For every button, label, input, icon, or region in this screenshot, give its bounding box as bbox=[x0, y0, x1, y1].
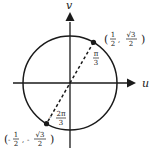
svg-text:2: 2 bbox=[38, 140, 42, 148]
unit-circle-diagram: u v ( 1 2 , √3 2 ) π 3 - 2π 3 ( - 1 2 bbox=[0, 0, 153, 161]
v-axis-arrowhead bbox=[66, 12, 75, 21]
u-axis-label: u bbox=[142, 77, 149, 90]
svg-text:,: , bbox=[22, 136, 24, 144]
svg-text:√3: √3 bbox=[36, 131, 45, 139]
v-axis-label: v bbox=[66, 0, 73, 12]
svg-text:3: 3 bbox=[94, 59, 98, 67]
svg-text:1: 1 bbox=[111, 31, 115, 39]
coord-label-pi-over-3: ( 1 2 , √3 2 ) bbox=[104, 31, 145, 48]
svg-text:(: ( bbox=[104, 33, 108, 46]
svg-text:√3: √3 bbox=[127, 31, 136, 39]
point-pi-over-3 bbox=[91, 40, 96, 45]
svg-text:2: 2 bbox=[129, 40, 133, 48]
u-axis-arrowhead bbox=[127, 79, 136, 88]
svg-text:2: 2 bbox=[111, 40, 115, 48]
svg-text:2: 2 bbox=[14, 140, 18, 148]
svg-text:π: π bbox=[94, 50, 99, 58]
angle-label-pi-over-3: π 3 bbox=[93, 50, 99, 67]
svg-text:-: - bbox=[27, 136, 30, 144]
svg-text:3: 3 bbox=[59, 119, 63, 127]
coord-label-minus-2pi-over-3: ( - 1 2 , - √3 2 ) bbox=[4, 131, 54, 148]
svg-text:1: 1 bbox=[14, 131, 18, 139]
svg-text:2π: 2π bbox=[56, 110, 65, 118]
svg-text:): ) bbox=[50, 133, 54, 146]
svg-text:-: - bbox=[8, 136, 11, 144]
svg-text:): ) bbox=[141, 33, 145, 46]
svg-text:,: , bbox=[118, 36, 120, 44]
angle-label-minus-2pi-over-3: - 2π 3 bbox=[49, 110, 66, 127]
point-minus-2pi-over-3 bbox=[44, 121, 49, 126]
